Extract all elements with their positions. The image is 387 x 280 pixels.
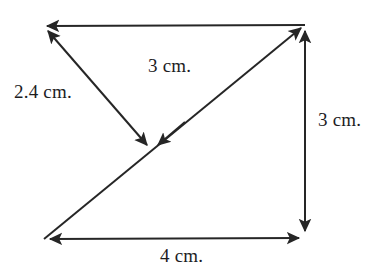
segment-top-edge [47, 25, 305, 26]
dimension-label-bottom: 4 cm. [160, 246, 203, 265]
segment-bottom-edge [50, 238, 299, 239]
dimension-label-right-side: 3 cm. [318, 110, 361, 129]
dimension-label-left-slant: 2.4 cm. [14, 82, 72, 101]
dimension-label-diagonal: 3 cm. [148, 56, 191, 75]
figure-canvas [0, 0, 387, 280]
geometry-diagram: 2.4 cm. 3 cm. 3 cm. 4 cm. [0, 0, 387, 280]
segment-diagonal-center-arrow [158, 122, 185, 145]
